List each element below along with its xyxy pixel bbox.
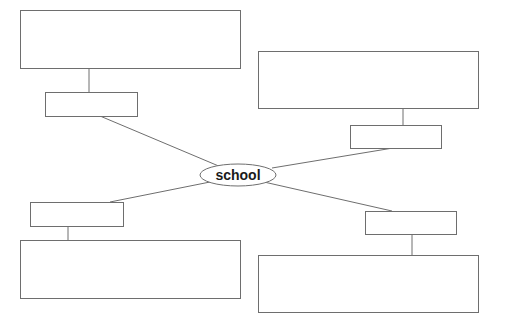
label-box-bottom-right[interactable] <box>365 211 457 235</box>
label-box-top-right[interactable] <box>350 125 442 149</box>
detail-box-bottom-left[interactable] <box>20 240 241 299</box>
spoke-bottom-right <box>264 182 392 211</box>
detail-box-top-left[interactable] <box>20 10 241 69</box>
spoke-top-left <box>100 116 221 167</box>
label-box-bottom-left[interactable] <box>30 202 124 227</box>
label-box-top-left[interactable] <box>45 92 138 117</box>
detail-box-top-right[interactable] <box>258 51 479 109</box>
spoke-bottom-left <box>110 182 210 202</box>
spoke-top-right <box>272 148 393 168</box>
center-node-label: school <box>200 164 276 186</box>
detail-box-bottom-right[interactable] <box>258 255 479 313</box>
